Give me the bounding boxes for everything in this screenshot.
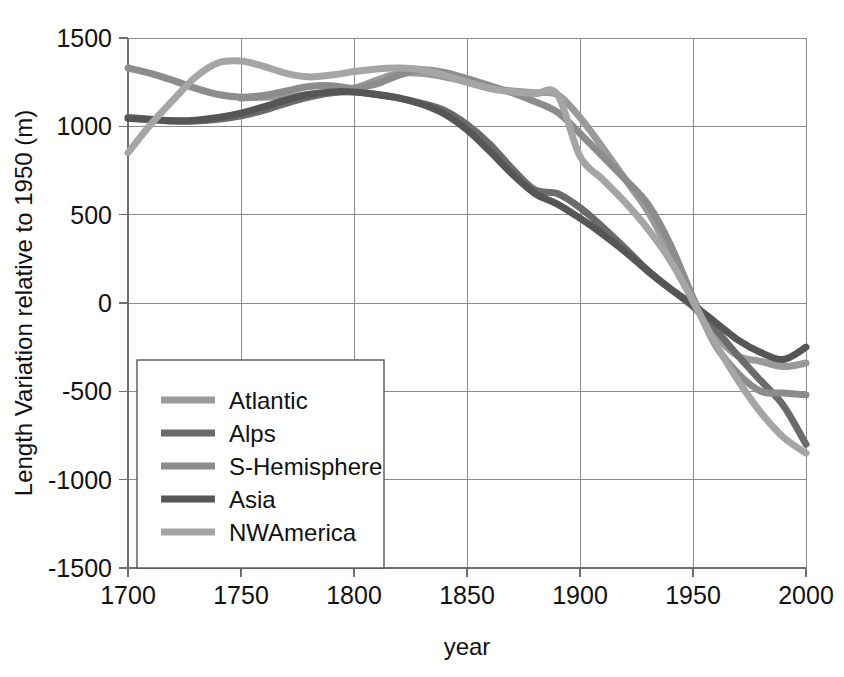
x-tick-label: 1950 — [665, 581, 721, 609]
legend-label-alps: Alps — [229, 420, 276, 447]
y-tick-label: -1000 — [48, 466, 112, 494]
y-axis-tick-labels: 150010005000-500-1000-1500 — [48, 24, 112, 582]
y-tick-label: -500 — [62, 377, 112, 405]
legend-label-nwamerica: NWAmerica — [229, 519, 357, 546]
y-axis-title: Length Variation relative to 1950 (m) — [10, 110, 37, 496]
x-tick-label: 1700 — [100, 581, 156, 609]
legend-label-asia: Asia — [229, 486, 276, 513]
y-tick-label: 500 — [70, 201, 112, 229]
x-tick-label: 1850 — [439, 581, 495, 609]
y-tick-label: 1500 — [56, 24, 112, 52]
line-chart: 1700175018001850190019502000 15001000500… — [0, 0, 844, 677]
chart-figure: 1700175018001850190019502000 15001000500… — [0, 0, 844, 677]
chart-legend: AtlanticAlpsS-HemisphereAsiaNWAmerica — [137, 360, 384, 568]
x-axis-title: year — [444, 633, 491, 660]
y-tick-label: 0 — [98, 289, 112, 317]
y-tick-label: 1000 — [56, 112, 112, 140]
x-tick-label: 1900 — [552, 581, 608, 609]
y-tick-label: -1500 — [48, 554, 112, 582]
x-axis-tick-labels: 1700175018001850190019502000 — [100, 581, 834, 609]
x-tick-label: 2000 — [778, 581, 834, 609]
x-tick-label: 1750 — [213, 581, 269, 609]
legend-label-atlantic: Atlantic — [229, 387, 308, 414]
x-tick-label: 1800 — [326, 581, 382, 609]
legend-label-s-hemisphere: S-Hemisphere — [229, 453, 382, 480]
